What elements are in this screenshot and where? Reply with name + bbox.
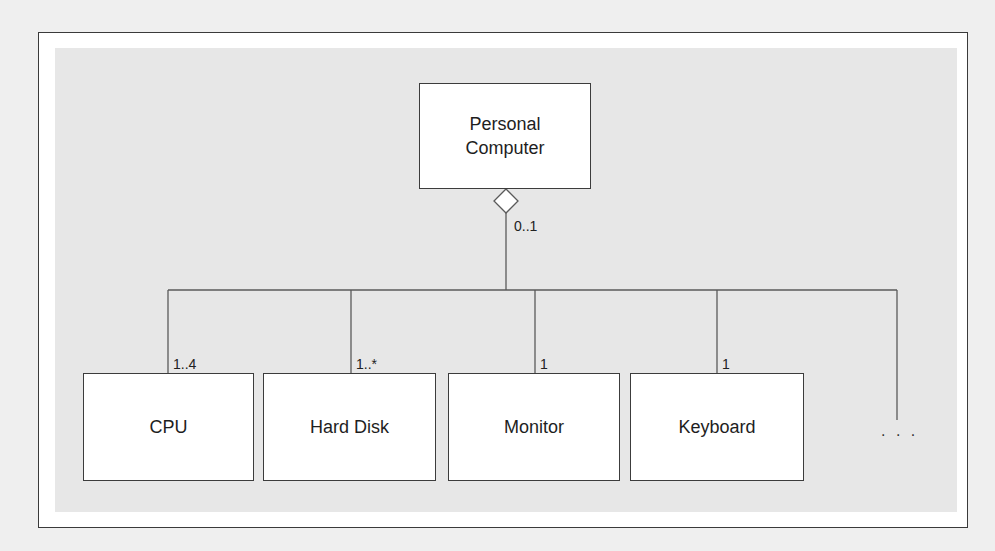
class-keyboard[interactable]: Keyboard <box>630 373 804 481</box>
class-hard-disk[interactable]: Hard Disk <box>263 373 436 481</box>
class-cpu[interactable]: CPU <box>83 373 254 481</box>
hard-disk-multiplicity: 1..* <box>356 356 377 372</box>
class-name: Hard Disk <box>310 415 389 439</box>
cpu-multiplicity: 1..4 <box>173 356 196 372</box>
class-name-line1: Personal <box>469 112 540 136</box>
class-name-line2: Computer <box>465 136 544 160</box>
class-monitor[interactable]: Monitor <box>448 373 620 481</box>
keyboard-multiplicity: 1 <box>722 356 730 372</box>
class-name: Keyboard <box>678 415 755 439</box>
whole-multiplicity: 0..1 <box>514 218 537 234</box>
class-name: Monitor <box>504 415 564 439</box>
aggregation-diamond-icon <box>494 189 518 213</box>
class-name: CPU <box>149 415 187 439</box>
monitor-multiplicity: 1 <box>540 356 548 372</box>
class-personal-computer[interactable]: Personal Computer <box>419 83 591 189</box>
more-parts-ellipsis: . . . <box>881 422 918 440</box>
